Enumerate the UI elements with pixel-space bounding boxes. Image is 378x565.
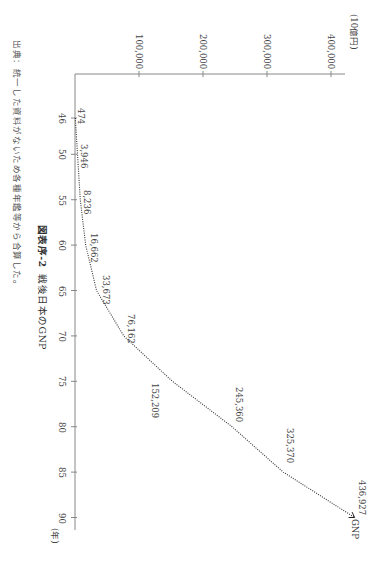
- data-point-label: 474: [76, 108, 86, 124]
- gnp-series-line: [75, 118, 354, 518]
- value-tick-label: 400,000: [326, 34, 336, 69]
- data-point-label: 245,360: [234, 387, 244, 422]
- data-point-label: 152,209: [150, 383, 160, 418]
- year-tick-label: 80: [57, 422, 67, 433]
- year-tick-label: 70: [57, 331, 67, 342]
- data-point-label: 8,236: [82, 190, 92, 214]
- figure-number: 図表序-2: [37, 225, 48, 268]
- year-tick-label: 90: [57, 513, 67, 524]
- year-tick-label: 65: [57, 286, 67, 297]
- value-tick-label: 100,000: [134, 34, 144, 69]
- year-tick-label: 50: [57, 149, 67, 160]
- year-axis-ticks: [71, 118, 77, 518]
- value-tick-label: 200,000: [198, 34, 208, 69]
- data-point-label: 76,162: [126, 314, 136, 344]
- data-point-label: 325,370: [285, 428, 295, 463]
- data-point-label: 3,946: [79, 144, 89, 168]
- series-name-label: GNP: [350, 519, 360, 539]
- figure-title: 図表序-2 戦後日本のGNP: [36, 225, 50, 350]
- year-axis-unit: (年): [50, 528, 62, 544]
- value-tick-label: 300,000: [262, 34, 272, 69]
- data-point-label: 436,927: [357, 480, 367, 515]
- data-point-label: 16,662: [89, 233, 99, 263]
- year-tick-label: 75: [57, 376, 67, 387]
- year-tick-label: 85: [57, 467, 67, 478]
- year-tick-label: 60: [57, 240, 67, 251]
- source-note: 出典：統一した資料がないため各種年鑑等から合算した。: [12, 40, 24, 290]
- gnp-line-chart: [0, 0, 378, 565]
- year-tick-label: 55: [57, 195, 67, 206]
- figure-title-text: 戦後日本のGNP: [37, 274, 48, 350]
- year-tick-label: 46: [57, 113, 67, 124]
- data-point-label: 33,673: [101, 275, 111, 305]
- value-axis-unit: (10億円): [349, 14, 361, 49]
